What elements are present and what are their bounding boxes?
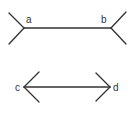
- arrowhead-c-lower: [24, 87, 39, 102]
- label-a: a: [26, 14, 32, 25]
- fin-a-lower: [9, 28, 24, 44]
- arrowhead-d-lower: [96, 87, 110, 101]
- fin-b-upper: [111, 12, 126, 28]
- top-figure-ab: a b: [9, 12, 126, 44]
- arrowhead-c-upper: [24, 72, 39, 87]
- arrowhead-d-upper: [96, 73, 110, 87]
- bottom-figure-cd: c d: [15, 72, 119, 102]
- label-d: d: [113, 82, 119, 93]
- fin-b-lower: [111, 28, 126, 44]
- label-b: b: [101, 14, 107, 25]
- label-c: c: [15, 82, 20, 93]
- fin-a-upper: [9, 13, 24, 28]
- muller-lyer-diagram: a b c d: [0, 0, 131, 115]
